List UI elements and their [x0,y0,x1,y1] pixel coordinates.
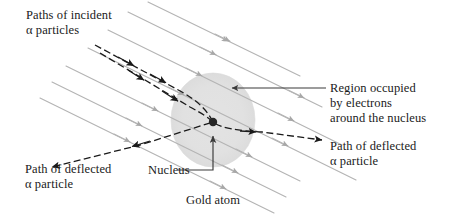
label-deflected-path-left: Path of deflected α particle [25,162,111,192]
label-region-occupied-by-electrons: Region occupied by electrons around the … [330,81,426,126]
label-region-line2: by electrons [330,96,426,111]
label-nucleus: Nucleus [148,163,190,178]
label-region-line1: Region occupied [330,81,426,96]
gray-track [148,2,300,76]
label-incident-paths: Paths of incident α particles [26,8,112,38]
label-deflected-path-right: Path of deflected α particle [330,139,416,169]
label-deflected-left-line1: Path of deflected [25,162,111,177]
rutherford-scattering-diagram: Paths of incident α particles Region occ… [0,0,452,217]
label-incident-paths-line2: α particles [26,23,112,38]
label-deflected-right-line2: α particle [330,154,416,169]
label-incident-paths-line1: Paths of incident [26,8,112,23]
label-gold-atom: Gold atom [186,193,240,208]
label-region-line3: around the nucleus [330,111,426,126]
label-deflected-right-line1: Path of deflected [330,139,416,154]
nucleus-dot [209,118,217,126]
label-deflected-left-line2: α particle [25,177,111,192]
